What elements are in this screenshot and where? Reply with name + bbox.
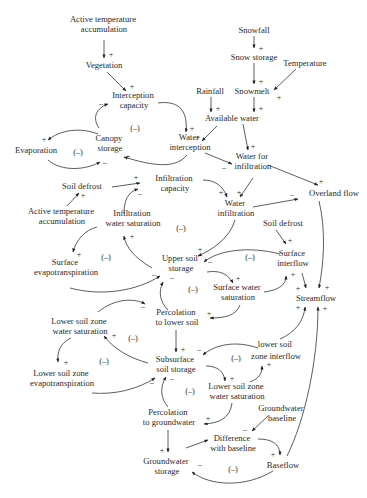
edge-subsurface-to-lower-saturation	[104, 336, 148, 363]
edge-upper-soil-storage-to-infiltration-saturation	[124, 236, 152, 268]
sign-plus: +	[190, 124, 195, 133]
sign-minus: –	[140, 302, 146, 311]
edge-interception-capacity-to-water-interception	[158, 103, 186, 132]
node-vegetation: Vegetation	[86, 60, 123, 70]
edge-surface-evapotranspiration-to-upper-soil-storage	[70, 276, 160, 292]
sign-plus: +	[230, 374, 235, 383]
node-soil-defrost-left: Soil defrost	[62, 181, 102, 191]
sign-plus: +	[296, 284, 301, 293]
sign-plus: +	[277, 93, 282, 102]
sign-minus: –	[221, 163, 227, 172]
edge-surface-water-saturation-to-surface-interflow	[264, 276, 286, 292]
edge-surface-interflow-to-streamflow	[302, 273, 306, 288]
sign-minus: –	[169, 374, 175, 383]
sign-minus: –	[149, 378, 155, 387]
sign-plus: +	[206, 414, 211, 423]
sign-minus: –	[98, 99, 104, 108]
node-groundwater-storage: Groundwater storage	[143, 456, 191, 476]
edge-water-infiltration-to-overland-flow	[253, 199, 298, 207]
edge-water-infiltration-to-upper-soil-storage	[198, 220, 235, 256]
loop-label: (–)	[176, 224, 186, 233]
sign-plus: +	[181, 345, 186, 354]
node-interception-capacity: Interception capacity	[112, 90, 156, 110]
edge-available-water-to-water-for-infiltration	[243, 124, 248, 150]
nodes: Active temperature accumulation Vegetati…	[15, 14, 360, 476]
sign-minus: –	[289, 190, 295, 199]
causal-loop-diagram: Active temperature accumulation Vegetati…	[0, 0, 367, 498]
edge-groundwater-storage-to-difference	[186, 440, 208, 448]
sign-plus: +	[296, 303, 301, 312]
node-baseflow: Baseflow	[267, 460, 300, 470]
edge-lower-saturation-to-percolation	[98, 300, 145, 312]
sign-plus: +	[42, 135, 47, 144]
node-overland-flow: Overland flow	[309, 188, 360, 198]
node-surface-evapotranspiration: Surface evapotranspiration	[34, 257, 99, 277]
node-surface-interflow: Surface interflow	[277, 248, 309, 268]
loop-label: (–)	[188, 285, 198, 294]
node-streamflow: Streamflow	[296, 293, 337, 303]
edge-surface-interflow-to-upper-soil-storage	[204, 250, 280, 262]
loop-label: (–)	[245, 253, 255, 262]
node-available-water: Available water	[205, 113, 259, 123]
edge-percolation-to-upper-soil-storage	[160, 282, 168, 310]
sign-plus: +	[259, 44, 264, 53]
edge-lower-interflow-to-streamflow	[280, 307, 305, 339]
node-lower-soil-zone-evapotranspiration: Lower soil zone evapotranspiration	[30, 368, 95, 388]
sign-plus: +	[236, 274, 241, 283]
sign-plus: +	[160, 446, 165, 455]
node-active-temperature-accumulation-mid: Active temperature accumulation	[28, 206, 96, 226]
node-canopy-storage: Canopy storage	[96, 133, 125, 153]
edge-water-interception-to-water-for-infiltration	[205, 153, 232, 164]
node-rainfall: Rainfall	[196, 86, 224, 96]
sign-plus: +	[130, 232, 135, 241]
node-lower-soil-zone-water-saturation-left: Lower soil zone water saturation	[51, 316, 109, 336]
node-upper-soil-storage: Upper soil storage	[162, 253, 200, 273]
edge-lower-saturation-right-to-lower-interflow	[250, 366, 262, 382]
node-snowfall: Snowfall	[238, 25, 270, 35]
sign-plus: +	[77, 250, 82, 259]
sign-plus: +	[219, 188, 224, 197]
sign-plus: +	[126, 152, 131, 161]
sign-plus: +	[64, 358, 69, 367]
loop-label: (–)	[130, 124, 140, 133]
edge-surface-water-saturation-to-percolation	[210, 305, 240, 318]
edge-baseline-to-difference	[252, 416, 268, 431]
sign-plus: +	[109, 50, 114, 59]
sign-plus: +	[198, 245, 203, 254]
sign-plus: +	[291, 270, 296, 279]
sign-plus: +	[134, 173, 139, 182]
sign-plus: +	[130, 82, 135, 91]
edge-active-temp-to-soil-defrost	[67, 193, 79, 206]
sign-minus: –	[196, 345, 202, 354]
edge-water-interception-to-canopy-storage	[124, 155, 187, 165]
node-groundwater-baseline: Groundwater baseline	[258, 403, 306, 423]
node-water-infiltration: Water infiltration	[218, 198, 255, 218]
loop-label: (–)	[128, 334, 138, 343]
edge-percolation-gw-to-subsurface	[162, 377, 168, 407]
edge-infiltration-capacity-to-water-infiltration	[203, 180, 227, 197]
sign-plus: +	[216, 104, 221, 113]
sign-plus: +	[112, 331, 117, 340]
sign-plus: +	[259, 77, 264, 86]
sign-minus: –	[137, 189, 143, 198]
loop-label: (–)	[101, 253, 111, 262]
edge-difference-to-baseflow	[258, 439, 280, 455]
node-snow-storage: Snow storage	[231, 52, 278, 62]
sign-plus: +	[259, 104, 264, 113]
node-surface-water-saturation: Surface water saturation	[213, 282, 263, 302]
node-evaporation: Evaporation	[15, 145, 58, 155]
node-snowmelt: Snowmelt	[235, 86, 270, 96]
loop-label: (–)	[228, 465, 238, 474]
edge-baseflow-to-streamflow	[287, 307, 318, 456]
loop-label: (–)	[185, 387, 195, 396]
sign-plus: +	[271, 450, 276, 459]
sign-plus: +	[323, 304, 328, 313]
node-water-interception: Water interception	[169, 132, 211, 152]
edge-soil-defrost-to-surface-interflow	[276, 230, 286, 244]
edge-soil-defrost-to-infiltration-capacity	[112, 183, 140, 187]
edge-subsurface-to-lower-saturation-right	[206, 366, 225, 381]
edge-canopy-storage-to-evaporation	[48, 130, 98, 140]
sign-plus: +	[267, 360, 272, 369]
sign-minus: –	[197, 460, 203, 469]
node-infiltration-capacity: Infiltration capacity	[155, 173, 194, 193]
